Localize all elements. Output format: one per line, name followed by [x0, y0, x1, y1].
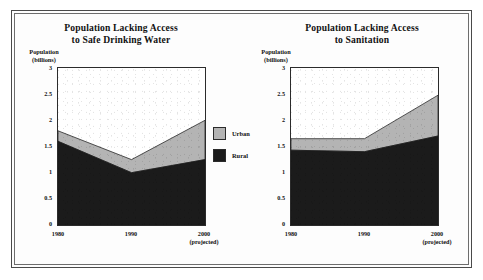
y-tick-water-0: 0: [26, 220, 52, 227]
chart-title-water-line2: to Safe Drinking Water: [0, 34, 242, 46]
plot-svg-water: [58, 68, 205, 225]
chart-title-sanitation-line2: to Sanitation: [241, 34, 483, 46]
x-tick-water-2000-sublabel: (projected): [183, 238, 225, 246]
y-axis-caption-water: Population (billions): [20, 48, 68, 63]
x-tick-sanitation-1980: 1980: [270, 230, 312, 238]
y-tick-sanitation-2.5: 2.5: [259, 90, 285, 97]
x-tick-water-1990: 1990: [110, 230, 152, 238]
y-axis-caption-water-line1: Population: [29, 48, 58, 55]
y-axis-caption-sanitation-line1: Population: [261, 48, 290, 55]
legend-item-urban: Urban: [213, 126, 250, 140]
y-tick-sanitation-3: 3: [259, 64, 285, 71]
legend-label-urban: Urban: [232, 130, 250, 137]
x-tick-water-1980: 1980: [37, 230, 79, 238]
legend-swatch-rural-icon: [213, 149, 226, 162]
chart-title-sanitation-line1: Population Lacking Access: [305, 22, 419, 33]
y-tick-water-3: 3: [26, 64, 52, 71]
y-tick-sanitation-0.5: 0.5: [259, 194, 285, 201]
chart-panel-water: Population Lacking Access to Safe Drinki…: [0, 0, 242, 280]
y-axis-caption-sanitation-line2: (billions): [252, 56, 300, 64]
legend-label-rural: Rural: [232, 152, 248, 159]
x-tick-water-1980-label: 1980: [52, 230, 64, 237]
legend-swatch-urban-icon: [213, 127, 226, 140]
y-tick-water-1.5: 1.5: [26, 142, 52, 149]
x-tick-sanitation-1990: 1990: [343, 230, 385, 238]
y-tick-water-1: 1: [26, 168, 52, 175]
y-tick-sanitation-0: 0: [259, 220, 285, 227]
x-tick-sanitation-2000-label: 2000: [431, 230, 443, 237]
y-axis-caption-sanitation: Population (billions): [252, 48, 300, 63]
x-tick-sanitation-1980-label: 1980: [285, 230, 297, 237]
y-tick-water-2: 2: [26, 116, 52, 123]
x-tick-sanitation-1990-label: 1990: [358, 230, 370, 237]
y-tick-water-2.5: 2.5: [26, 90, 52, 97]
x-tick-sanitation-2000-sublabel: (projected): [416, 238, 458, 246]
y-tick-sanitation-2: 2: [259, 116, 285, 123]
plot-area-sanitation: [290, 67, 439, 226]
y-axis-caption-water-line2: (billions): [20, 56, 68, 64]
plot-svg-sanitation: [291, 68, 438, 225]
x-tick-water-2000-label: 2000: [198, 230, 210, 237]
x-tick-sanitation-2000: 2000 (projected): [416, 230, 458, 246]
y-tick-water-0.5: 0.5: [26, 194, 52, 201]
figure-canvas: Population Lacking Access to Safe Drinki…: [0, 0, 483, 280]
x-tick-water-1990-label: 1990: [125, 230, 137, 237]
legend-item-rural: Rural: [213, 148, 248, 162]
chart-title-water-line1: Population Lacking Access: [64, 22, 178, 33]
plot-area-water: [57, 67, 206, 226]
chart-title-sanitation: Population Lacking Access to Sanitation: [241, 22, 483, 47]
chart-title-water: Population Lacking Access to Safe Drinki…: [0, 22, 242, 47]
x-tick-water-2000: 2000 (projected): [183, 230, 225, 246]
chart-legend: Urban Rural: [213, 126, 277, 170]
